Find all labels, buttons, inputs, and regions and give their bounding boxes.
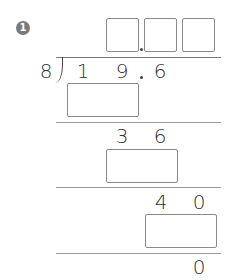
dividend-decimal-point: [140, 76, 143, 79]
step2-line: [56, 187, 221, 188]
quotient-box-tenths[interactable]: [144, 18, 177, 52]
dividend-digit-3: 6: [150, 60, 170, 82]
step3-product-box[interactable]: [145, 214, 217, 248]
step2-product-box[interactable]: [106, 149, 178, 183]
final-remainder: 0: [189, 256, 209, 278]
step2-remainder-digit-2: 0: [189, 191, 209, 213]
divisor: 8: [36, 60, 56, 82]
division-bar: [56, 57, 221, 58]
step2-remainder-digit-1: 4: [151, 191, 171, 213]
quotient-box-hundredths[interactable]: [182, 18, 215, 52]
quotient-box-ones[interactable]: [106, 18, 139, 52]
step1-product-box[interactable]: [67, 83, 139, 117]
division-bracket: [55, 57, 63, 83]
dividend-digit-2: 9: [112, 60, 132, 82]
step1-line: [56, 122, 221, 123]
step1-remainder-digit-2: 6: [150, 125, 170, 147]
problem-number-badge: 1: [16, 21, 30, 35]
step3-line: [56, 253, 221, 254]
dividend-digit-1: 1: [73, 60, 93, 82]
quotient-decimal-point: [140, 48, 143, 51]
step1-remainder-digit-1: 3: [112, 125, 132, 147]
